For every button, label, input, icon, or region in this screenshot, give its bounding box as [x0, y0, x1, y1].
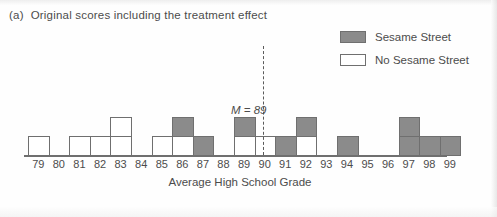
legend-label-sesame-street: Sesame Street: [375, 31, 451, 43]
data-block-91-1: [275, 136, 297, 156]
x-tick-93: 93: [316, 158, 337, 170]
mean-annotation-label: M = 89: [231, 104, 266, 116]
x-tick-92: 92: [296, 158, 317, 170]
block-column-91: [275, 136, 296, 155]
block-column-94: [337, 136, 358, 155]
data-block-97-2: [399, 117, 421, 137]
x-tick-88: 88: [213, 158, 234, 170]
block-column-82: [90, 136, 111, 155]
block-column-92: [296, 117, 317, 155]
x-tick-82: 82: [90, 158, 111, 170]
data-block-89-2: [234, 117, 256, 137]
x-axis-tick-labels: 7980818283848586878889909192939495969798…: [28, 158, 460, 170]
panel-title-text: Original scores including the treatment …: [31, 9, 268, 21]
x-tick-95: 95: [357, 158, 378, 170]
data-block-83-2: [110, 117, 132, 137]
data-block-98-1: [419, 136, 441, 156]
figure-panel: (a)Original scores including the treatme…: [0, 0, 497, 217]
plot-area: M = 89: [28, 60, 460, 155]
x-tick-80: 80: [49, 158, 70, 170]
x-tick-98: 98: [419, 158, 440, 170]
mean-marker-line-icon: [263, 46, 264, 155]
block-column-79: [28, 136, 49, 155]
x-tick-85: 85: [151, 158, 172, 170]
block-column-83: [110, 117, 131, 155]
x-tick-90: 90: [254, 158, 275, 170]
block-column-81: [69, 136, 90, 155]
scan-edge-right: [491, 0, 497, 217]
x-axis-line: [24, 155, 447, 157]
data-block-97-1: [399, 136, 421, 156]
data-block-99-1: [440, 136, 462, 156]
data-block-87-1: [193, 136, 215, 156]
scan-edge-top: [0, 0, 497, 5]
x-tick-97: 97: [398, 158, 419, 170]
data-block-92-1: [296, 136, 318, 156]
data-block-83-1: [110, 136, 132, 156]
data-block-86-1: [172, 136, 194, 156]
data-block-86-2: [172, 117, 194, 137]
block-column-97: [399, 117, 420, 155]
block-column-89: [234, 117, 255, 155]
block-column-99: [440, 136, 461, 155]
block-column-98: [419, 136, 440, 155]
block-column-85: [152, 136, 173, 155]
x-tick-96: 96: [378, 158, 399, 170]
panel-title: (a)Original scores including the treatme…: [9, 9, 267, 21]
data-block-92-2: [296, 117, 318, 137]
data-block-94-1: [337, 136, 359, 156]
data-block-79-1: [28, 136, 50, 156]
x-tick-84: 84: [131, 158, 152, 170]
panel-letter-label: (a): [9, 9, 24, 21]
legend-item-sesame-street: Sesame Street: [340, 31, 469, 43]
x-tick-87: 87: [193, 158, 214, 170]
data-block-90-1: [255, 136, 277, 156]
x-tick-83: 83: [110, 158, 131, 170]
x-tick-86: 86: [172, 158, 193, 170]
data-block-82-1: [90, 136, 112, 156]
data-block-85-1: [152, 136, 174, 156]
legend-swatch-icon-sesame-street: [340, 31, 366, 43]
block-column-90: [255, 136, 276, 155]
x-tick-91: 91: [275, 158, 296, 170]
block-column-86: [172, 117, 193, 155]
x-tick-81: 81: [69, 158, 90, 170]
data-block-89-1: [234, 136, 256, 156]
x-tick-99: 99: [440, 158, 461, 170]
x-tick-94: 94: [337, 158, 358, 170]
x-axis-title: Average High School Grade: [0, 176, 480, 188]
data-block-81-1: [69, 136, 91, 156]
x-tick-79: 79: [28, 158, 49, 170]
scan-edge-bottom: [0, 207, 497, 217]
x-tick-89: 89: [234, 158, 255, 170]
block-column-87: [193, 136, 214, 155]
